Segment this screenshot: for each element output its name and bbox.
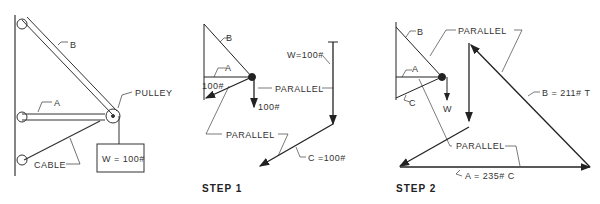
step2-label-parallel-bottom: PARALLEL <box>456 141 505 151</box>
step2-label-b-result: B = 211# T <box>542 88 590 98</box>
step1-label-b: B <box>226 33 233 43</box>
step1-label-force-left: 100# <box>202 81 224 91</box>
label-b: B <box>70 40 77 50</box>
label-weight: W = 100# <box>102 154 145 164</box>
step2-label-a: A <box>412 64 419 74</box>
pin-icon <box>17 155 27 165</box>
step2-label-b: B <box>417 27 424 37</box>
step2-title: STEP 2 <box>396 183 436 194</box>
structure-figure <box>15 15 144 176</box>
step2-label-c: C <box>409 98 416 108</box>
step1-diagram <box>204 24 338 166</box>
step2-label-w: W <box>443 104 452 114</box>
step1-label-w: W=100# <box>287 50 324 60</box>
step2-diagram <box>396 22 590 176</box>
step1-label-parallel-top: PARALLEL <box>275 84 324 94</box>
label-cable: CABLE <box>34 160 66 170</box>
step1-title: STEP 1 <box>202 183 242 194</box>
step1-label-parallel-bottom: PARALLEL <box>226 130 275 140</box>
label-a: A <box>54 98 61 108</box>
step1-label-c: C =100# <box>308 153 346 163</box>
step1-label-a: A <box>225 63 232 73</box>
step2-label-parallel-top: PARALLEL <box>458 26 507 36</box>
step2-label-a-result: A = 235# C <box>465 171 515 181</box>
force-diagram: B A PULLEY CABLE W = 100# B A 100# 100# … <box>0 0 600 204</box>
label-pulley: PULLEY <box>135 88 173 98</box>
step1-label-force-down: 100# <box>258 102 280 112</box>
